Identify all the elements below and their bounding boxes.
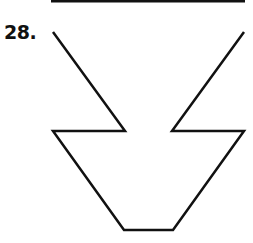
down-arrow-outline [53,32,244,230]
problem-number: 28. [4,21,36,43]
figure-canvas: 28. [0,0,253,243]
arrow-figure [0,0,253,243]
